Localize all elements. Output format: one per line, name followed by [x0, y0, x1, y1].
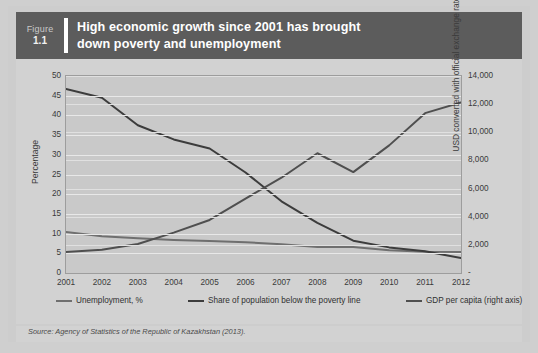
legend-swatch: [188, 300, 204, 302]
x-tick: 2005: [201, 278, 219, 287]
x-tick: 2004: [165, 278, 183, 287]
gridline: [66, 115, 461, 116]
x-tick: 2003: [129, 278, 147, 287]
y-tick-left: 0: [56, 268, 61, 277]
gridline-secondary: [66, 132, 461, 133]
y-axis-right-ticks: -2,0004,0006,0008,00010,00012,00014,000: [466, 75, 506, 274]
y-tick-left: 40: [52, 110, 61, 119]
chart-legend: Unemployment, %Share of population below…: [56, 296, 506, 310]
gridline: [66, 194, 461, 195]
y-tick-left: 5: [56, 248, 61, 257]
x-tick: 2009: [344, 278, 362, 287]
legend-label: GDP per capita (right axis): [426, 296, 522, 305]
y-axis-left-ticks: 05101520253035404550: [34, 75, 64, 274]
y-tick-right: 4,000: [468, 211, 489, 220]
y-tick-left: 30: [52, 149, 61, 158]
legend-label: Unemployment, %: [76, 296, 143, 305]
x-tick: 2006: [236, 278, 254, 287]
y-tick-left: 10: [52, 228, 61, 237]
legend-item[interactable]: Unemployment, %: [56, 296, 143, 305]
y-tick-right: 10,000: [468, 127, 493, 136]
x-tick: 2008: [308, 278, 326, 287]
gridline: [66, 175, 461, 176]
y-tick-left: 50: [52, 71, 61, 80]
gridline: [66, 214, 461, 215]
y-tick-right: -: [468, 268, 471, 277]
x-tick: 2001: [57, 278, 75, 287]
y-tick-left: 15: [52, 208, 61, 217]
legend-label: Share of population below the poverty li…: [208, 296, 360, 305]
chart-area: Percentage 05101520253035404550 -2,0004,…: [16, 59, 522, 324]
y-tick-right: 8,000: [468, 155, 489, 164]
y-tick-right: 14,000: [468, 71, 493, 80]
figure-number-block: Figure 1.1: [16, 12, 64, 59]
series-line: [66, 102, 461, 252]
x-tick: 2007: [272, 278, 290, 287]
header-divider: [64, 18, 68, 53]
gridline-secondary: [66, 189, 461, 190]
gridline-secondary: [66, 160, 461, 161]
gridline-secondary: [66, 217, 461, 218]
gridline: [66, 96, 461, 97]
x-tick: 2010: [380, 278, 398, 287]
x-tick: 2011: [416, 278, 434, 287]
source-note: Source: Agency of Statistics of the Repu…: [28, 327, 245, 336]
figure-label: Figure: [27, 24, 54, 35]
gridline: [66, 234, 461, 235]
figure-header: Figure 1.1 High economic growth since 20…: [16, 12, 522, 59]
y-tick-left: 20: [52, 189, 61, 198]
x-axis-ticks: 2001200220032004200520062007200820092010…: [65, 278, 462, 292]
y-axis-right-title: USD converted with official exchange rat…: [451, 0, 461, 174]
y-tick-right: 12,000: [468, 99, 493, 108]
figure-card: Figure 1.1 High economic growth since 20…: [8, 6, 530, 342]
y-tick-left: 35: [52, 130, 61, 139]
y-tick-right: 6,000: [468, 183, 489, 192]
gridline-secondary: [66, 76, 461, 77]
x-tick: 2012: [452, 278, 470, 287]
plot-frame: [65, 75, 462, 274]
gridline: [66, 155, 461, 156]
legend-swatch: [406, 300, 422, 302]
legend-item[interactable]: GDP per capita (right axis): [406, 296, 522, 305]
legend-item[interactable]: Share of population below the poverty li…: [188, 296, 360, 305]
y-tick-left: 45: [52, 90, 61, 99]
figure-number: 1.1: [33, 35, 47, 48]
gridline: [66, 273, 461, 274]
gridline: [66, 135, 461, 136]
gridline-secondary: [66, 104, 461, 105]
y-tick-right: 2,000: [468, 239, 489, 248]
y-tick-left: 25: [52, 169, 61, 178]
source-bar: Source: Agency of Statistics of the Repu…: [16, 326, 522, 342]
x-tick: 2002: [93, 278, 111, 287]
legend-swatch: [56, 300, 72, 302]
gridline-secondary: [66, 245, 461, 246]
gridline: [66, 253, 461, 254]
